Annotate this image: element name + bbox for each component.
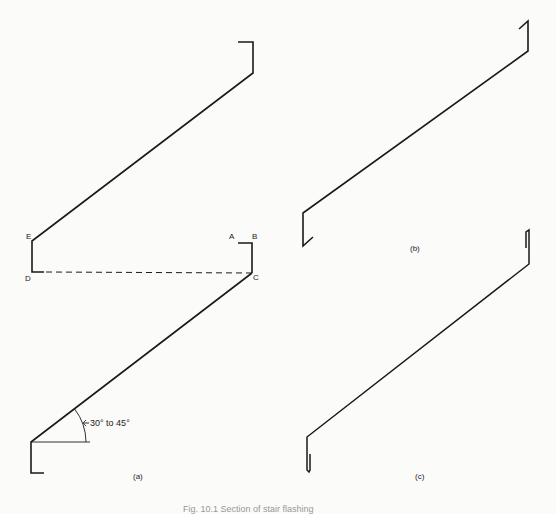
panel-label-a: (a) [133, 473, 143, 481]
angle-annotation [31, 409, 90, 442]
point-label-b: B [252, 233, 257, 241]
panel-a-hook-abc [238, 243, 252, 273]
figure-caption: Fig. 10.1 Section of stair flashing [183, 504, 314, 514]
panel-a-lower-profile [31, 273, 252, 473]
point-label-d: D [25, 275, 31, 283]
point-label-c: C [253, 274, 259, 282]
panel-label-c: (c) [415, 473, 424, 481]
panel-b-profile [303, 21, 528, 246]
panel-a-upper-profile [32, 42, 253, 272]
dashed-reference-line-dc [46, 272, 252, 273]
angle-label: 30° to 45° [90, 419, 130, 428]
panel-label-b: (b) [410, 245, 420, 253]
point-label-e: E [26, 233, 31, 241]
panel-c-profile [307, 230, 529, 472]
point-label-a: A [229, 233, 234, 241]
